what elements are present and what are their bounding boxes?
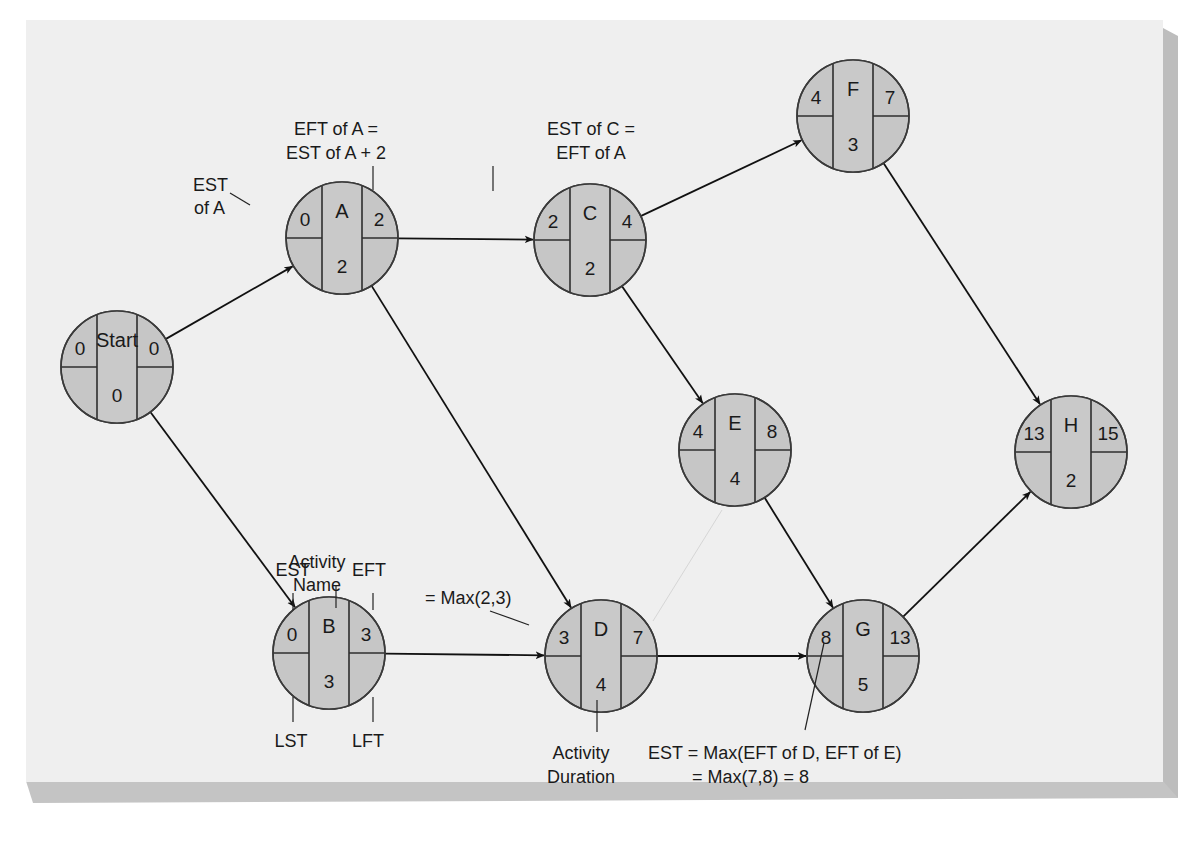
node-start: Start000 xyxy=(61,311,173,423)
annotation-est-of-c-1: EST of C = xyxy=(547,119,635,139)
node-name: D xyxy=(594,618,608,640)
node-eft: 8 xyxy=(767,421,778,442)
node-h: H13152 xyxy=(1015,396,1127,508)
node-duration: 3 xyxy=(324,671,335,692)
annotation-est-g-1: EST = Max(EFT of D, EFT of E) xyxy=(648,743,902,763)
node-name: F xyxy=(847,78,859,100)
annotation-eft-of-a-2: EST of A + 2 xyxy=(286,143,386,163)
node-eft: 15 xyxy=(1097,423,1118,444)
node-name: A xyxy=(335,200,349,222)
legend-lft: LFT xyxy=(352,731,384,751)
node-est: 0 xyxy=(300,209,311,230)
node-duration: 0 xyxy=(112,385,123,406)
node-duration: 2 xyxy=(585,258,596,279)
node-duration: 2 xyxy=(1066,470,1077,491)
node-est: 13 xyxy=(1023,423,1044,444)
node-duration: 3 xyxy=(848,134,859,155)
node-name: H xyxy=(1064,414,1078,436)
annotation-max-2-3: = Max(2,3) xyxy=(425,588,512,608)
node-f: F473 xyxy=(797,60,909,172)
node-est: 3 xyxy=(559,627,570,648)
legend-eft: EFT xyxy=(352,560,386,580)
node-g: G8135 xyxy=(807,600,919,712)
node-est: 8 xyxy=(821,627,832,648)
node-name: Start xyxy=(96,329,139,351)
node-eft: 4 xyxy=(622,211,633,232)
node-d: D374 xyxy=(545,600,657,712)
annotation-eft-of-a-1: EFT of A = xyxy=(294,119,378,139)
node-eft: 13 xyxy=(889,627,910,648)
node-duration: 4 xyxy=(730,468,741,489)
node-est: 4 xyxy=(693,421,704,442)
annotation-est-of-a-2: of A xyxy=(194,198,225,218)
node-eft: 0 xyxy=(149,338,160,359)
edge-a-to-c xyxy=(398,238,533,239)
node-eft: 7 xyxy=(633,627,644,648)
annotation-est-g-2: = Max(7,8) = 8 xyxy=(692,767,809,787)
node-a: A022 xyxy=(286,182,398,294)
node-name: C xyxy=(583,202,597,224)
node-c: C242 xyxy=(534,184,646,296)
node-duration: 5 xyxy=(858,674,869,695)
node-b: B033 xyxy=(273,597,385,709)
node-est: 0 xyxy=(75,338,86,359)
annotation-est-of-c-2: EFT of A xyxy=(556,143,626,163)
node-est: 4 xyxy=(811,87,822,108)
node-duration: 2 xyxy=(337,256,348,277)
node-e: E484 xyxy=(679,394,791,506)
node-duration: 4 xyxy=(596,674,607,695)
legend-activity-duration-1: Activity xyxy=(552,743,609,763)
annotation-est-of-a-1: EST xyxy=(193,175,228,195)
node-eft: 3 xyxy=(361,624,372,645)
node-eft: 2 xyxy=(374,209,385,230)
node-est: 0 xyxy=(287,624,298,645)
legend-activity-duration-2: Duration xyxy=(547,767,615,787)
node-name: E xyxy=(728,412,741,434)
legend-est: EST xyxy=(275,560,310,580)
node-name: B xyxy=(322,615,335,637)
network-diagram: Start000A022B033C242D374E484F473G8135H13… xyxy=(0,0,1201,849)
node-eft: 7 xyxy=(885,87,896,108)
node-est: 2 xyxy=(548,211,559,232)
legend-lst: LST xyxy=(274,731,307,751)
node-name: G xyxy=(855,618,871,640)
